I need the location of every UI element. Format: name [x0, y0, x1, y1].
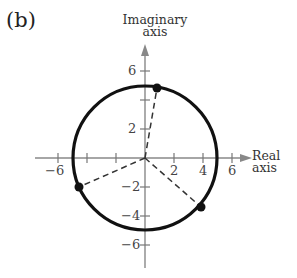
y-tick-label-6: 6 — [128, 63, 136, 78]
y-tick-label-2: 2 — [128, 121, 136, 136]
x-tick-label-6: 6 — [228, 163, 236, 178]
root-point-1 — [153, 84, 162, 93]
real-axis-arrow-icon — [240, 154, 252, 162]
y-tick-label-neg4: −4 — [121, 208, 140, 223]
y-tick-label-neg6: −6 — [121, 237, 140, 252]
root-point-3 — [197, 203, 206, 212]
x-tick-label-4: 4 — [199, 163, 207, 178]
y-tick-label-neg2: −2 — [121, 179, 140, 194]
imaginary-axis-arrow-icon — [141, 44, 149, 56]
root-point-2 — [75, 183, 84, 192]
x-tick-label-2: 2 — [170, 163, 178, 178]
complex-plane-diagram — [0, 0, 297, 278]
x-tick-label-neg6: −6 — [45, 163, 64, 178]
